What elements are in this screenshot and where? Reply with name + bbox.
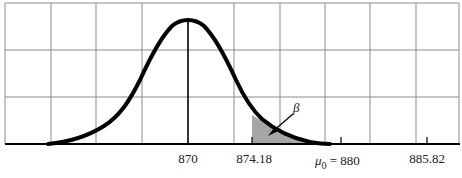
beta-label: β (292, 100, 300, 115)
tick-label-870: 870 (178, 151, 198, 166)
normal-curve (48, 20, 330, 144)
mu-value: = 880 (327, 153, 360, 168)
tick-label-885: 885.82 (409, 151, 445, 166)
tick-label-mu0: μ0 = 880 (314, 153, 360, 171)
normal-curve-chart: β 870 874.18 μ0 = 880 885.82 (0, 0, 462, 178)
tick-label-874: 874.18 (236, 151, 272, 166)
